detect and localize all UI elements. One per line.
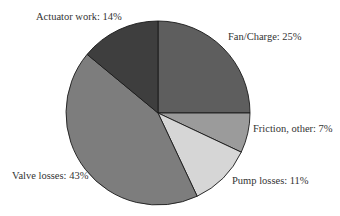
label-fan-charge: Fan/Charge: 25% bbox=[228, 31, 302, 42]
label-valve-losses: Valve losses: 43% bbox=[12, 170, 88, 181]
label-actuator-work: Actuator work: 14% bbox=[36, 11, 122, 22]
label-pump-losses: Pump losses: 11% bbox=[232, 175, 309, 186]
label-friction-other: Friction, other: 7% bbox=[253, 123, 333, 134]
